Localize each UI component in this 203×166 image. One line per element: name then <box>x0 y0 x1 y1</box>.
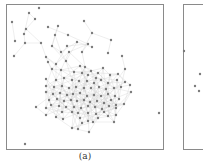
graph-node <box>124 81 126 83</box>
graph-node <box>24 42 26 44</box>
graph-node <box>88 131 90 133</box>
graph-node <box>55 79 57 81</box>
graph-node <box>81 72 83 74</box>
graph-node <box>183 50 185 52</box>
graph-node <box>87 112 89 114</box>
graph-node <box>80 107 82 109</box>
graph-node <box>100 79 102 81</box>
graph-node <box>73 106 75 108</box>
graph-node <box>93 82 95 84</box>
graph-node <box>45 107 47 109</box>
graph-node <box>57 25 59 27</box>
graph-node <box>35 106 37 108</box>
graph-node <box>199 73 201 75</box>
graph-node <box>116 79 118 81</box>
graph-node <box>97 72 99 74</box>
graph-node <box>45 114 47 116</box>
graph-node <box>45 91 47 93</box>
graph-node <box>77 128 79 130</box>
graph-node <box>45 78 47 80</box>
graph-node <box>34 18 36 20</box>
graph-node <box>102 67 104 69</box>
graph-node <box>115 114 117 116</box>
graph-node <box>81 122 83 124</box>
graph-node <box>53 86 55 88</box>
graph-node <box>86 95 88 97</box>
graph-node <box>67 34 69 36</box>
graph-node <box>121 55 123 57</box>
graph-node <box>71 127 73 129</box>
graph-node <box>65 106 67 108</box>
graph-node <box>59 92 61 94</box>
graph-node <box>79 117 81 119</box>
graph-node <box>23 33 25 35</box>
graph-node <box>110 99 112 101</box>
graph-node <box>123 103 125 105</box>
graph-node <box>38 7 40 9</box>
graph-node <box>118 98 120 100</box>
graph-node <box>47 26 49 28</box>
graph-node <box>90 87 92 89</box>
graph-node <box>100 95 102 97</box>
graph-node <box>107 52 109 54</box>
graph-node <box>87 120 89 122</box>
graph-node <box>105 88 107 90</box>
graph-node <box>79 92 81 94</box>
graph-node <box>115 104 117 106</box>
graph-node <box>48 99 50 101</box>
graph-node <box>96 100 98 102</box>
graph-node <box>71 79 73 81</box>
graph-node <box>66 45 68 47</box>
graph-node <box>45 56 47 58</box>
graph-node <box>25 28 27 30</box>
graph-node <box>60 51 62 53</box>
graph-node <box>66 94 68 96</box>
graph-node <box>72 93 74 95</box>
graph-node <box>78 80 80 82</box>
graph-node <box>91 46 93 48</box>
graph-node <box>75 86 77 88</box>
graph-node <box>115 107 117 109</box>
graph-node <box>61 111 63 113</box>
graph-node <box>117 73 119 75</box>
graph-node <box>51 45 53 47</box>
graph-node <box>113 87 115 89</box>
graph-node <box>86 80 88 82</box>
panel-a-caption: (a) <box>0 151 170 161</box>
graph-node <box>113 121 115 123</box>
graph-node <box>98 86 100 88</box>
graph-node <box>158 112 160 114</box>
graph-node <box>97 117 99 119</box>
graph-node <box>92 121 94 123</box>
graph-node <box>77 112 79 114</box>
graph-node <box>124 68 126 70</box>
graph-node <box>83 99 85 101</box>
graph-node <box>93 94 95 96</box>
graph-node <box>76 100 78 102</box>
graph-node <box>73 71 75 73</box>
graph-node <box>58 105 60 107</box>
graph-node <box>83 20 85 22</box>
graph-node <box>45 85 47 87</box>
graph-node <box>14 40 16 42</box>
graph-node <box>63 100 65 102</box>
graph-node <box>76 41 78 43</box>
graph-node <box>83 87 85 89</box>
graph-node <box>79 65 81 67</box>
graph-node <box>28 12 30 14</box>
graph-node <box>94 106 96 108</box>
graph-node <box>71 111 73 113</box>
graph-node <box>56 98 58 100</box>
graph-node <box>55 63 57 65</box>
graph-node <box>47 61 49 63</box>
graph-node <box>108 105 110 107</box>
graph-node <box>52 93 54 95</box>
graph-node <box>198 90 200 92</box>
graph-node <box>65 60 67 62</box>
graph-node <box>50 104 52 106</box>
graph-node <box>55 116 57 118</box>
graph-node <box>54 34 56 36</box>
network-graph <box>0 0 203 166</box>
graph-node <box>87 43 89 45</box>
graph-node <box>130 91 132 93</box>
